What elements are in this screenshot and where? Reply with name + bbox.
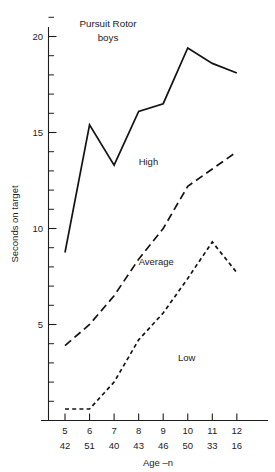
x-tick-label: 9 xyxy=(161,425,166,436)
chart-title: Pursuit Rotor xyxy=(79,18,137,29)
x-n-label: 16 xyxy=(232,440,243,451)
series-line-high xyxy=(65,48,237,252)
x-tick-label: 12 xyxy=(232,425,243,436)
x-tick-label: 11 xyxy=(207,425,217,436)
y-axis-ticks xyxy=(49,17,57,401)
x-axis-title: Age –n xyxy=(143,457,173,468)
x-n-label: 50 xyxy=(182,440,193,451)
y-axis: 5101520 Seconds on target xyxy=(9,17,57,420)
x-axis: 56789101112 4251404346503316 Age –n xyxy=(41,414,268,469)
y-tick-label: 10 xyxy=(32,223,43,234)
x-n-label: 46 xyxy=(158,440,169,451)
x-axis-ticks xyxy=(65,414,237,421)
x-tick-label: 8 xyxy=(136,425,141,436)
y-axis-title: Seconds on target xyxy=(9,185,20,262)
x-n-label: 40 xyxy=(109,440,120,451)
y-tick-label: 20 xyxy=(32,31,43,42)
series-label-high: High xyxy=(139,156,159,167)
series-line-average xyxy=(65,152,237,346)
pursuit-rotor-line-chart: 5101520 Seconds on target 56789101112 42… xyxy=(0,0,275,472)
chart-page: 5101520 Seconds on target 56789101112 42… xyxy=(0,0,275,472)
x-tick-label: 6 xyxy=(87,425,92,436)
x-axis-tick-labels: 56789101112 xyxy=(62,425,242,436)
data-series-group xyxy=(65,48,237,409)
x-tick-label: 7 xyxy=(111,425,116,436)
chart-subtitle: boys xyxy=(98,32,119,43)
y-tick-label: 5 xyxy=(38,319,43,330)
x-n-label: 33 xyxy=(207,440,218,451)
x-tick-label: 10 xyxy=(182,425,193,436)
chart-title-block: Pursuit Rotor boys xyxy=(79,18,137,43)
x-n-label: 51 xyxy=(84,440,95,451)
y-tick-label: 15 xyxy=(32,127,43,138)
x-axis-n-labels: 4251404346503316 xyxy=(60,440,242,451)
series-line-low xyxy=(65,242,237,409)
x-n-label: 43 xyxy=(133,440,144,451)
x-tick-label: 5 xyxy=(62,425,67,436)
y-axis-tick-labels: 5101520 xyxy=(32,31,43,330)
x-n-label: 42 xyxy=(60,440,71,451)
series-label-low: Low xyxy=(178,352,196,363)
series-label-average: Average xyxy=(139,256,174,267)
